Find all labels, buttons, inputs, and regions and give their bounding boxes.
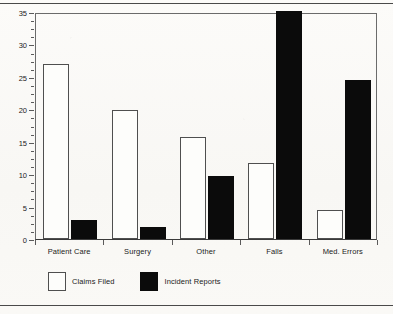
y-tick-minor — [31, 29, 34, 30]
y-tick-minor — [31, 62, 34, 63]
legend-label-incident-reports: Incident Reports — [164, 277, 220, 286]
y-tick-minor — [31, 224, 34, 225]
bar-claims-filed — [43, 64, 69, 239]
legend-swatch-incident-reports — [140, 272, 158, 291]
x-tick — [240, 240, 241, 245]
x-tick — [377, 240, 378, 245]
y-tick-minor — [31, 102, 34, 103]
y-tick-label: 5 — [23, 203, 27, 212]
y-tick-minor — [31, 21, 34, 22]
bar-claims-filed — [180, 137, 206, 239]
y-tick-label: 0 — [23, 236, 27, 245]
y-tick-minor — [31, 159, 34, 160]
y-tick-minor — [31, 135, 34, 136]
y-tick-minor — [31, 151, 34, 152]
x-tick — [103, 240, 104, 245]
legend-item-claims-filed: Claims Filed — [48, 272, 114, 291]
x-tick — [309, 240, 310, 245]
x-axis-label-med-errors: Med. Errors — [323, 247, 363, 256]
y-tick-major — [29, 13, 34, 14]
chart-legend: Claims Filed Incident Reports — [48, 272, 221, 291]
y-tick-minor — [31, 127, 34, 128]
bar-claims-filed — [248, 163, 274, 239]
x-axis-label-patient-care: Patient Care — [48, 247, 91, 256]
page-rule-top — [0, 3, 393, 4]
plot-area — [35, 13, 377, 240]
bar-claims-filed — [317, 210, 343, 239]
y-tick-label: 10 — [19, 171, 27, 180]
y-tick-major — [29, 175, 34, 176]
legend-label-claims-filed: Claims Filed — [72, 277, 114, 286]
x-axis-label-falls: Falls — [266, 247, 282, 256]
y-tick-label: 25 — [19, 73, 27, 82]
y-tick-major — [29, 45, 34, 46]
bar-incident-reports — [140, 227, 166, 239]
y-tick-minor — [31, 94, 34, 95]
y-tick-label: 15 — [19, 138, 27, 147]
y-tick-minor — [31, 232, 34, 233]
y-tick-minor — [31, 86, 34, 87]
bar-incident-reports — [208, 176, 234, 239]
y-tick-label: 35 — [19, 9, 27, 18]
y-tick-minor — [31, 199, 34, 200]
y-tick-minor — [31, 191, 34, 192]
y-tick-minor — [31, 216, 34, 217]
legend-swatch-claims-filed — [48, 272, 66, 291]
y-tick-major — [29, 78, 34, 79]
bar-incident-reports — [71, 220, 97, 239]
y-tick-major — [29, 208, 34, 209]
bar-incident-reports — [276, 11, 302, 239]
bar-claims-filed — [112, 110, 138, 239]
bar-incident-reports — [345, 80, 371, 239]
y-tick-minor — [31, 37, 34, 38]
y-tick-major — [29, 110, 34, 111]
x-tick — [35, 240, 36, 245]
y-tick-minor — [31, 167, 34, 168]
y-tick-minor — [31, 118, 34, 119]
x-axis-label-other: Other — [196, 247, 215, 256]
page-rule-bottom — [0, 305, 393, 306]
y-tick-major — [29, 143, 34, 144]
y-tick-minor — [31, 54, 34, 55]
legend-item-incident-reports: Incident Reports — [140, 272, 220, 291]
x-tick — [172, 240, 173, 245]
y-tick-label: 20 — [19, 106, 27, 115]
y-tick-minor — [31, 183, 34, 184]
y-tick-minor — [31, 70, 34, 71]
x-axis-label-surgery: Surgery — [124, 247, 151, 256]
y-tick-label: 30 — [19, 41, 27, 50]
bars-container — [36, 14, 376, 239]
y-tick-major — [29, 240, 34, 241]
y-axis: Percent of Total 05101520253035 — [0, 13, 35, 240]
